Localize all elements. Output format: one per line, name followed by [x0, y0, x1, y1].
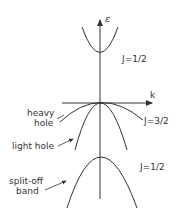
conduction-J-label: J=1/2: [121, 54, 147, 64]
band-diagram: ε k J=1/2 J=3/2 J=1/2 heavy hole light h…: [0, 0, 181, 220]
light-hole-curve: [75, 103, 127, 150]
split-off-label-line2: band: [16, 186, 39, 196]
split-off-band-curve: [67, 157, 137, 208]
energy-axis-label: ε: [105, 13, 110, 24]
heavy-hole-curve: [60, 102, 143, 122]
valence-J-label: J=3/2: [143, 116, 169, 126]
light-hole-label: light hole: [12, 141, 55, 151]
splitoff-J-label: J=1/2: [139, 162, 165, 172]
heavy-hole-label-line2: hole: [34, 118, 54, 128]
heavy-hole-pointer: [57, 115, 64, 119]
heavy-hole-label-line1: heavy: [27, 108, 55, 118]
split-off-label-line1: split-off: [9, 176, 44, 186]
split-off-arrow: [45, 181, 66, 190]
light-hole-arrow: [58, 139, 73, 146]
k-axis-label: k: [150, 90, 156, 100]
